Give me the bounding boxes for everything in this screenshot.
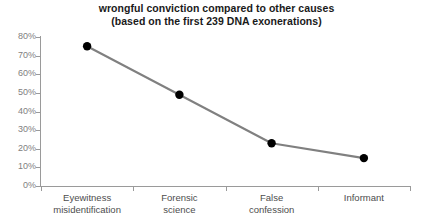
data-point-marker: Eyewitness misidentification: 75% [83, 42, 91, 50]
x-category-label: Falseconfession [226, 192, 318, 215]
data-point-marker: Informant: 15% [360, 154, 368, 162]
chart-subtitle: (based on the first 239 DNA exonerations… [0, 15, 433, 28]
data-point-marker: Forensic science: 49% [175, 91, 183, 99]
series-markers: Eyewitness misidentification: 75%Forensi… [83, 42, 368, 162]
x-category-label-line: Forensic [133, 192, 225, 204]
x-category-label-line: Informant [318, 192, 410, 204]
x-tick-mark [226, 186, 227, 191]
series-line [87, 46, 364, 158]
line-chart: wrongful conviction compared to other ca… [0, 0, 433, 224]
x-tick-mark [410, 186, 411, 191]
y-tick-label: 40% [2, 107, 36, 116]
x-category-label-line: misidentification [41, 204, 133, 216]
x-axis-line [40, 186, 410, 187]
x-category-label: Informant [318, 192, 410, 204]
y-tick-label: 60% [2, 69, 36, 78]
chart-title-line-1: wrongful conviction compared to other ca… [99, 2, 335, 14]
x-category-label-line: False [226, 192, 318, 204]
y-tick-label: 70% [2, 51, 36, 60]
y-tick-label: 80% [2, 32, 36, 41]
x-category-label-line: science [133, 204, 225, 216]
chart-title: wrongful conviction compared to other ca… [0, 2, 433, 28]
y-tick-label: 20% [2, 144, 36, 153]
y-tick-label: 30% [2, 125, 36, 134]
y-tick-label: 50% [2, 88, 36, 97]
y-tick-label: 0% [2, 181, 36, 190]
y-axis-line [40, 36, 41, 187]
x-category-label: Forensicscience [133, 192, 225, 215]
data-series: Eyewitness misidentification: 75%Forensi… [0, 0, 433, 224]
x-category-label-line: confession [226, 204, 318, 216]
x-category-label: Eyewitnessmisidentification [41, 192, 133, 215]
x-category-label-line: Eyewitness [41, 192, 133, 204]
x-tick-mark [318, 186, 319, 191]
x-tick-mark [41, 186, 42, 191]
y-tick-label: 10% [2, 162, 36, 171]
x-tick-mark [133, 186, 134, 191]
y-axis-labels: 80%70%60%50%40%30%20%10%0% [0, 0, 36, 224]
data-point-marker: False confession: 23% [267, 139, 275, 147]
